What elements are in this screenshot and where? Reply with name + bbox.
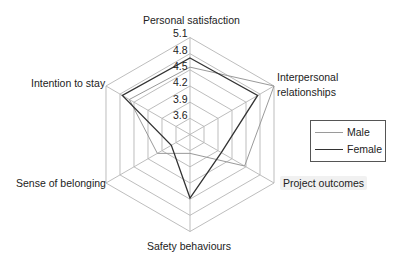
tick-4-5: 4.5 [173,60,188,72]
axis-label-safety-behaviours: Safety behaviours [147,240,231,252]
legend-item-male: Male [315,126,370,138]
legend-line-female-icon [315,149,343,150]
series-male [129,67,274,166]
axis-label-interpersonal-line1: Interpersonal [277,70,338,85]
axis-label-project-outcomes: Project outcomes [280,176,367,190]
legend-label-female: Female [347,143,382,155]
radar-series [122,58,274,198]
legend: Male Female [310,120,386,162]
legend-item-female: Female [315,143,382,155]
legend-label-male: Male [347,126,370,138]
tick-5-1: 5.1 [173,27,188,39]
axis-label-personal-satisfaction: Personal satisfaction [143,14,240,26]
tick-3-6: 3.6 [173,109,188,121]
tick-3-9: 3.9 [173,93,188,105]
tick-4-8: 4.8 [173,44,188,56]
axis-label-interpersonal-line2: relationships [277,85,338,100]
axis-label-sense-of-belonging: Sense of belonging [16,177,106,189]
legend-line-male-icon [315,132,343,133]
axis-label-interpersonal-relationships: Interpersonal relationships [277,70,338,100]
axis-label-intention-to-stay: Intention to stay [31,77,105,89]
radar-grid [106,38,274,232]
tick-4-2: 4.2 [173,76,188,88]
